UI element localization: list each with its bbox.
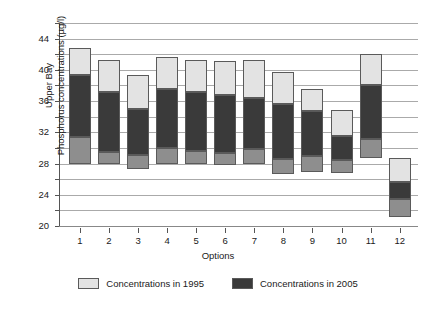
- x-tick-label: 3: [129, 236, 147, 246]
- bar-column: [243, 23, 265, 226]
- bars-layer: [59, 23, 418, 226]
- bar-segment: [214, 95, 236, 154]
- x-tick-mark: [80, 228, 81, 233]
- bar-segment: [98, 92, 120, 151]
- x-tick-label: 2: [100, 236, 118, 246]
- bar-column: [156, 23, 178, 226]
- bar-column: [185, 23, 207, 226]
- bar-column: [272, 23, 294, 226]
- x-tick-label: 5: [187, 236, 205, 246]
- x-tick-label: 9: [303, 236, 321, 246]
- bar-segment: [331, 136, 353, 160]
- x-tick-label: 4: [158, 236, 176, 246]
- bar-segment: [360, 54, 382, 84]
- bar-segment: [301, 156, 323, 172]
- bar-segment: [156, 89, 178, 148]
- legend-label-2005: Concentrations in 2005: [260, 278, 358, 289]
- x-tick-mark: [283, 228, 284, 233]
- bar-segment: [272, 72, 294, 104]
- bar-column: [98, 23, 120, 226]
- x-tick-label: 11: [362, 236, 380, 246]
- x-tick-label: 7: [245, 236, 263, 246]
- x-tick-label: 1: [71, 236, 89, 246]
- bar-segment: [127, 155, 149, 169]
- x-tick-mark: [167, 228, 168, 233]
- x-tick-mark: [138, 228, 139, 233]
- x-tick-mark: [400, 228, 401, 233]
- bar-segment: [272, 104, 294, 159]
- bar-segment: [156, 57, 178, 90]
- bar-segment: [331, 110, 353, 137]
- bar-segment: [185, 151, 207, 164]
- x-tick-label: 12: [391, 236, 409, 246]
- legend-item-2005: Concentrations in 2005: [232, 278, 358, 289]
- x-tick-mark: [254, 228, 255, 233]
- bar-segment: [69, 48, 91, 75]
- x-tick-label: 6: [216, 236, 234, 246]
- x-tick-mark: [109, 228, 110, 233]
- x-tick-mark: [371, 228, 372, 233]
- y-axis-title-line2: Phosphorus concentrations (µg/l): [54, 0, 66, 176]
- bar-segment: [127, 75, 149, 109]
- chart-legend: Concentrations in 1995 Concentrations in…: [0, 278, 436, 289]
- x-tick-mark: [225, 228, 226, 233]
- bar-column: [301, 23, 323, 226]
- bar-segment: [214, 153, 236, 165]
- y-tick-label: 24: [27, 190, 49, 200]
- legend-item-1995: Concentrations in 1995: [78, 278, 204, 289]
- bar-segment: [69, 75, 91, 137]
- bar-segment: [185, 60, 207, 92]
- y-axis-title: Upper Bay Phosphorus concentrations (µg/…: [43, 0, 66, 176]
- x-tick-mark: [196, 228, 197, 233]
- bar-segment: [360, 85, 382, 139]
- bar-segment: [389, 182, 411, 198]
- y-tick-label: 20: [27, 221, 49, 231]
- phosphorus-concentration-chart: 20242832364044 123456789101112 Upper Bay…: [0, 0, 436, 326]
- bar-segment: [185, 92, 207, 151]
- bar-segment: [360, 139, 382, 159]
- bar-segment: [301, 111, 323, 156]
- bar-segment: [214, 61, 236, 95]
- bar-segment: [243, 149, 265, 163]
- legend-swatch-1995: [78, 278, 99, 289]
- bar-segment: [301, 89, 323, 112]
- bar-column: [69, 23, 91, 226]
- bar-segment: [69, 137, 91, 164]
- bar-segment: [98, 60, 120, 93]
- bar-segment: [127, 109, 149, 155]
- bar-segment: [389, 158, 411, 182]
- bar-column: [389, 23, 411, 226]
- bar-column: [127, 23, 149, 226]
- legend-label-1995: Concentrations in 1995: [106, 278, 204, 289]
- bar-segment: [243, 98, 265, 150]
- bar-segment: [243, 60, 265, 97]
- bar-column: [360, 23, 382, 226]
- x-tick-label: 8: [274, 236, 292, 246]
- x-axis-title: Options: [0, 250, 436, 261]
- bar-column: [214, 23, 236, 226]
- x-tick-mark: [342, 228, 343, 233]
- bar-segment: [98, 152, 120, 164]
- x-tick-label: 10: [333, 236, 351, 246]
- x-axis-line: [59, 226, 418, 227]
- bar-segment: [331, 160, 353, 172]
- bar-segment: [389, 199, 411, 218]
- x-tick-mark: [312, 228, 313, 233]
- y-axis-title-line1: Upper Bay: [43, 0, 55, 176]
- bar-segment: [272, 159, 294, 174]
- legend-swatch-2005: [232, 278, 253, 289]
- bar-segment: [156, 148, 178, 164]
- bar-column: [331, 23, 353, 226]
